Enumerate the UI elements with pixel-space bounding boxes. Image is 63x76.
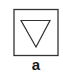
diagram-figure-a: a: [0, 0, 63, 76]
square-frame-icon: [14, 10, 58, 56]
figure-label: a: [0, 57, 63, 73]
down-triangle-icon: [21, 21, 50, 48]
